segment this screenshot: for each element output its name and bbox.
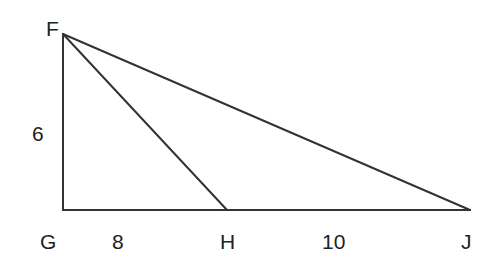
diagram-svg: F 6 G 8 H 10 J	[0, 0, 499, 278]
vertex-label-h: H	[220, 230, 235, 253]
length-label-fg: 6	[32, 122, 44, 145]
segment-fh	[63, 34, 227, 210]
segment-fj	[63, 34, 470, 210]
length-label-gh: 8	[112, 230, 124, 253]
vertex-label-g: G	[40, 230, 56, 253]
vertex-label-f: F	[46, 17, 59, 40]
length-label-hj: 10	[322, 230, 345, 253]
vertex-label-j: J	[461, 230, 472, 253]
triangle-diagram: F 6 G 8 H 10 J	[0, 0, 499, 278]
